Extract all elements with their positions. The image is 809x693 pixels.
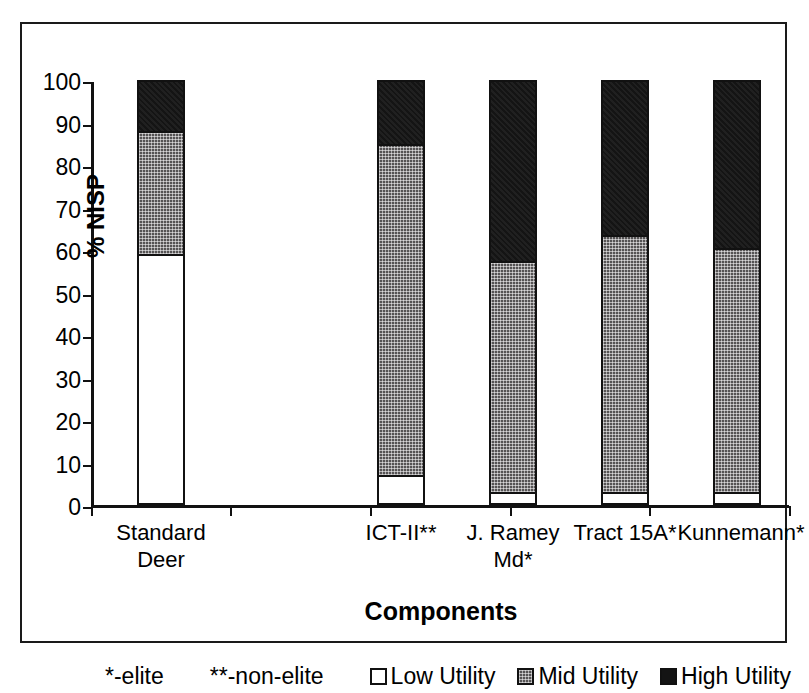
legend-swatch-high-utility-icon — [660, 668, 677, 685]
bar-j-ramey-md[interactable] — [489, 80, 537, 505]
legend-entry-mid-utility[interactable]: Mid Utility — [517, 663, 638, 690]
bar-segment-high[interactable] — [377, 80, 425, 144]
legend-entry-low-utility[interactable]: Low Utility — [370, 663, 496, 690]
y-tick-label-0: 0 — [29, 496, 81, 519]
y-tick-label-20: 20 — [29, 411, 81, 434]
legend-label-low-utility: Low Utility — [391, 663, 496, 690]
x-axis-title: Components — [91, 597, 791, 626]
y-tick-50 — [83, 295, 92, 297]
figure-frame: 100 90 80 70 60 50 40 30 20 10 0 % NISP — [20, 22, 787, 643]
x-tick-0 — [91, 506, 93, 516]
legend-swatch-low-utility-icon — [370, 668, 387, 685]
bar-segment-high[interactable] — [489, 80, 537, 261]
bar-segment-high[interactable] — [601, 80, 649, 235]
bar-segment-high[interactable] — [713, 80, 761, 248]
x-label-standard-deer: Standard Deer — [91, 519, 231, 573]
bar-segment-mid[interactable] — [601, 235, 649, 492]
y-tick-30 — [83, 380, 92, 382]
legend-label-high-utility: High Utility — [681, 663, 791, 690]
bar-segment-mid[interactable] — [377, 144, 425, 476]
y-tick-label-50: 50 — [29, 284, 81, 307]
y-tick-10 — [83, 465, 92, 467]
legend-note-non-elite: **-non-elite — [210, 663, 324, 690]
bar-segment-high[interactable] — [137, 80, 185, 131]
bar-segment-low[interactable] — [713, 492, 761, 505]
y-tick-20 — [83, 422, 92, 424]
y-tick-label-10: 10 — [29, 454, 81, 477]
bar-segment-mid[interactable] — [489, 261, 537, 493]
y-tick-label-80: 80 — [29, 156, 81, 179]
legend-note-elite: *-elite — [105, 663, 164, 690]
y-tick-40 — [83, 337, 92, 339]
bar-segment-mid[interactable] — [713, 248, 761, 492]
legend-swatch-mid-utility-icon — [517, 668, 534, 685]
bar-segment-low[interactable] — [377, 475, 425, 505]
y-axis-title: % NISP — [82, 174, 110, 258]
legend-entry-high-utility[interactable]: High Utility — [660, 663, 791, 690]
x-tick-3 — [510, 506, 512, 516]
y-tick-label-100: 100 — [29, 71, 81, 94]
bar-ict-ii[interactable] — [377, 80, 425, 505]
plot-area: 100 90 80 70 60 50 40 30 20 10 0 % NISP — [91, 82, 791, 507]
x-tick-2 — [370, 506, 372, 516]
x-label-kunnemann: Kunnemann* — [665, 519, 809, 546]
bar-segment-low[interactable] — [489, 492, 537, 505]
y-tick-label-90: 90 — [29, 114, 81, 137]
y-tick-100 — [83, 82, 92, 84]
bar-kunnemann[interactable] — [713, 80, 761, 505]
bar-tract-15a[interactable] — [601, 80, 649, 505]
x-tick-4 — [649, 506, 651, 516]
bar-segment-low[interactable] — [601, 492, 649, 505]
chart-legend: *-elite **-non-elite Low Utility Mid Uti… — [105, 659, 805, 693]
y-tick-80 — [83, 167, 92, 169]
bar-segment-low[interactable] — [137, 254, 185, 505]
y-tick-label-40: 40 — [29, 326, 81, 349]
legend-label-mid-utility: Mid Utility — [538, 663, 638, 690]
y-tick-label-60: 60 — [29, 241, 81, 264]
x-axis-line — [91, 505, 789, 508]
y-tick-90 — [83, 125, 92, 127]
y-tick-label-70: 70 — [29, 199, 81, 222]
x-tick-5 — [789, 506, 791, 516]
y-tick-label-30: 30 — [29, 369, 81, 392]
bar-segment-mid[interactable] — [137, 131, 185, 254]
bar-standard-deer[interactable] — [137, 80, 185, 505]
x-tick-1 — [230, 506, 232, 516]
